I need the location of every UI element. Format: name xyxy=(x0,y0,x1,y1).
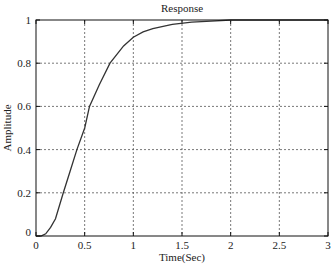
y-tick-labels: 00.20.40.60.81 xyxy=(17,14,31,238)
y-tick-label: 1 xyxy=(26,14,32,26)
chart-title: Response xyxy=(161,2,203,14)
y-tick-label: 0 xyxy=(26,226,32,238)
y-tick-label: 0.2 xyxy=(17,187,31,199)
y-tick-label: 0.4 xyxy=(17,144,31,156)
x-tick-label: 0.5 xyxy=(78,239,92,251)
grid-lines xyxy=(36,20,328,236)
y-axis-label: Amplitude xyxy=(1,104,13,151)
x-tick-label: 3 xyxy=(325,239,331,251)
x-tick-labels: 00.511.522.53 xyxy=(33,239,331,251)
x-tick-label: 2.5 xyxy=(272,239,286,251)
x-tick-label: 1.5 xyxy=(175,239,189,251)
x-tick-label: 0 xyxy=(33,239,39,251)
y-tick-label: 0.8 xyxy=(17,57,31,69)
x-tick-label: 2 xyxy=(228,239,234,251)
step-response-chart: Response 00.511.522.53 00.20.40.60.81 Ti… xyxy=(0,0,336,265)
x-axis-label: Time(Sec) xyxy=(159,251,205,264)
y-tick-label: 0.6 xyxy=(17,100,31,112)
x-tick-label: 1 xyxy=(131,239,137,251)
